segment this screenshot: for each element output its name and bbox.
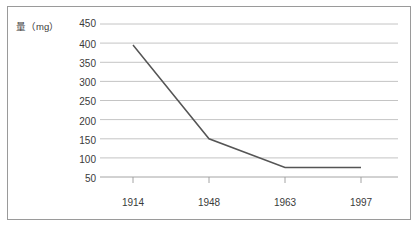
chart-figure: 量（mg） 450 400 350 300 250 200 150 100 50…: [0, 0, 420, 229]
gridlines: [100, 24, 398, 158]
x-axis-ticks: [133, 177, 361, 183]
data-line-series-1: [133, 45, 361, 167]
plot-area: [0, 0, 420, 229]
